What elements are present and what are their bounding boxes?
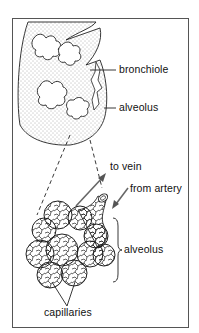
from-artery-arrow — [112, 188, 128, 209]
label-alveolus-upper: alveolus — [119, 101, 158, 113]
alveolar-cluster — [26, 192, 115, 288]
lung-diagram-art — [0, 0, 199, 333]
lung-tissue-section — [18, 22, 107, 145]
label-bronchiole: bronchiole — [119, 63, 168, 75]
label-from-artery: from artery — [130, 182, 182, 194]
label-to-vein: to vein — [110, 160, 142, 172]
label-capillaries: capillaries — [44, 306, 92, 318]
label-alveolus-lower: alveolus — [124, 243, 163, 255]
